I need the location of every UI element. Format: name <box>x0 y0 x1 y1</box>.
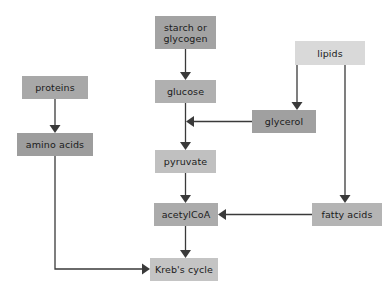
node-krebs_cycle: Kreb's cycle <box>150 258 218 281</box>
arrowhead-glycerol-to-glucose-pyruvate <box>186 116 194 127</box>
edge-lipids-to-glycerol <box>292 65 303 110</box>
edge-starch-to-glucose <box>180 49 191 80</box>
edge-acetylcoa-to-krebs <box>180 226 191 258</box>
node-amino_acids: amino acids <box>17 133 93 156</box>
arrowhead-glucose-to-pyruvate <box>180 142 191 150</box>
node-glycerol: glycerol <box>252 110 316 133</box>
edge-lipids-to-fatty-acids <box>340 65 351 203</box>
node-pyruvate: pyruvate <box>155 150 216 173</box>
metabolic-pathway-diagram: starch or glycogenlipidsproteinsglucoseg… <box>0 0 391 298</box>
arrowhead-acetylcoa-to-krebs <box>180 250 191 258</box>
arrowhead-lipids-to-glycerol <box>292 102 303 110</box>
node-fatty_acids: fatty acids <box>312 203 382 226</box>
node-lipids: lipids <box>295 41 365 65</box>
node-proteins: proteins <box>22 76 88 99</box>
arrowhead-fatty-acids-to-acetylcoa <box>218 209 226 220</box>
edge-amino-acids-to-krebs <box>55 156 150 275</box>
arrowhead-lipids-to-fatty-acids <box>340 195 351 203</box>
edge-pyruvate-to-acetylcoa <box>180 173 191 203</box>
edge-glucose-to-pyruvate <box>180 103 191 150</box>
edge-proteins-to-amino-acids <box>50 99 61 133</box>
node-starch_or_glycogen: starch or glycogen <box>155 16 216 49</box>
arrowhead-starch-to-glucose <box>180 72 191 80</box>
arrowhead-pyruvate-to-acetylcoa <box>180 195 191 203</box>
node-glucose: glucose <box>155 80 216 103</box>
node-acetylcoa: acetylCoA <box>154 203 218 226</box>
arrowhead-amino-acids-to-krebs <box>142 264 150 275</box>
edge-glycerol-to-glucose-pyruvate <box>186 116 252 127</box>
arrowhead-proteins-to-amino-acids <box>50 125 61 133</box>
edge-fatty-acids-to-acetylcoa <box>218 209 312 220</box>
